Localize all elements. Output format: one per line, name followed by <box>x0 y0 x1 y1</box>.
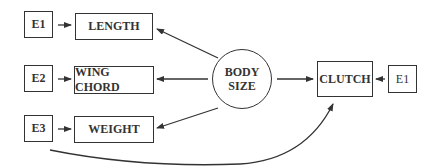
arrow-bodysize-length <box>157 29 218 58</box>
arrow-bodysize-weight <box>157 108 218 128</box>
error-box-e3-weight: E3 <box>24 115 53 142</box>
body-size-line1: BODY <box>225 65 260 79</box>
outcome-box-clutch: CLUTCH <box>317 61 373 97</box>
latent-node-body-size: BODY SIZE <box>212 49 272 109</box>
body-size-line2: SIZE <box>228 79 255 93</box>
error-box-e1-length: E1 <box>24 11 53 38</box>
error-box-e2-wingchord: E2 <box>24 65 53 92</box>
indicator-box-length: LENGTH <box>75 13 153 40</box>
indicator-box-weight: WEIGHT <box>74 116 154 143</box>
error-box-e1-clutch: E1 <box>388 65 417 93</box>
indicator-box-wing-chord: WING CHORD <box>74 66 154 94</box>
